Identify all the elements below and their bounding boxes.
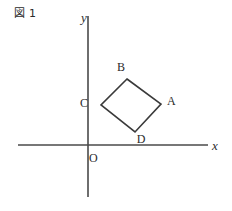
vertex-label-a: A	[167, 94, 176, 108]
figure-panel: 図 1 x y O A B C D	[0, 0, 232, 211]
coordinate-plane-diagram: x y O A B C D	[0, 0, 232, 211]
vertex-label-c: C	[80, 96, 88, 110]
vertex-label-d: D	[137, 132, 146, 146]
origin-label: O	[89, 151, 98, 165]
square-abcd	[101, 79, 161, 132]
vertex-label-b: B	[117, 60, 125, 74]
x-axis-label: x	[211, 138, 218, 153]
y-axis-label: y	[79, 10, 87, 25]
